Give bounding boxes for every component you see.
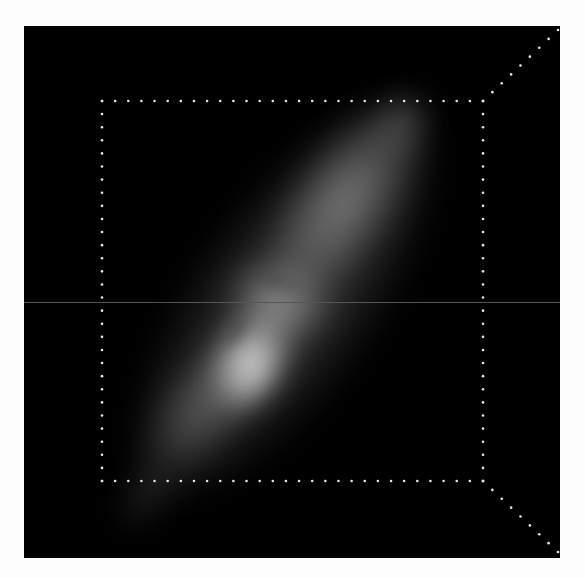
image-canvas (0, 0, 585, 578)
galaxy-volume-render (24, 26, 560, 558)
render-panel (24, 26, 560, 558)
scan-line-artifact (24, 302, 560, 303)
